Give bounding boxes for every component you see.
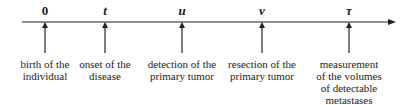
tick-onset: t: [103, 3, 107, 19]
event-birth-label: birth of the individual: [21, 58, 70, 82]
event-resection-label: resection of the primary tumor: [228, 58, 296, 82]
event-detection-label: detection of the primary tumor: [148, 58, 216, 82]
tick-birth: 0: [42, 3, 49, 19]
event-onset-label: onset of the disease: [79, 58, 130, 82]
tick-resection: v: [259, 3, 265, 19]
event-measurement-label: measurement of the volumes of detectable…: [316, 58, 381, 105]
tick-measurement: τ: [346, 3, 352, 19]
tick-detection: u: [178, 3, 185, 19]
